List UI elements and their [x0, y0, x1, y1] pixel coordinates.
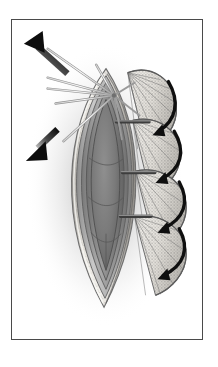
figure-frame	[11, 19, 203, 340]
illustration-canvas	[12, 20, 202, 339]
traction-arrow-upper	[24, 31, 68, 74]
staple-1[interactable]	[115, 120, 151, 123]
figure-root: Layered surgical wound closure diagram G…	[0, 0, 218, 367]
suture-convergence-knot	[112, 93, 116, 97]
staple-2[interactable]	[121, 171, 157, 174]
staple-3[interactable]	[119, 215, 153, 218]
